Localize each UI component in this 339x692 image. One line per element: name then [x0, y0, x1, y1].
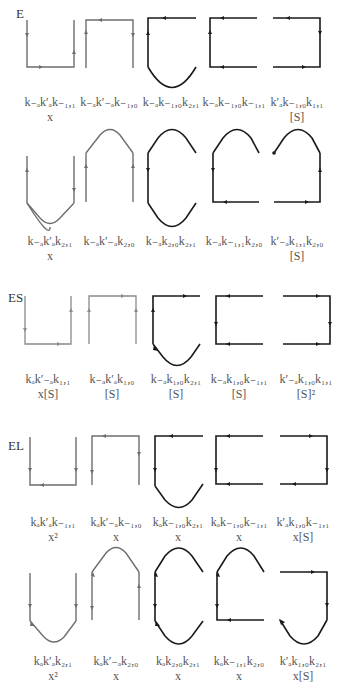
factor-EL2-5: x[S] [268, 669, 338, 683]
factor-ES-2: [S] [77, 387, 147, 401]
term-label: k′ₐk₋₁,₀k₁,₁[S] [262, 95, 332, 124]
term-E1-5: k′ₐk₋₁,₀k₁,₁ [262, 95, 332, 109]
term-label: k′ₐk₁,₀k₋₁,₁x[S] [268, 515, 338, 544]
term-label: kₐk₋₁,₀k₋₁,₁x [204, 515, 274, 544]
factor-EL1-3: x [143, 530, 213, 544]
factor-EL2-1: x² [18, 669, 88, 683]
factor-EL1-4: x [204, 530, 274, 544]
factor-EL2-4: x [204, 669, 274, 683]
term-label: k₋ₐk₁,₀k₋₁,₁[S] [204, 372, 274, 401]
factor-ES-3: [S] [141, 387, 211, 401]
term-ES-4: k₋ₐk₁,₀k₋₁,₁ [204, 372, 274, 386]
term-E1-2: k₋ₐk′₋ₐk₋₁,₀ [74, 95, 144, 109]
factor-E2-1: x [15, 249, 85, 263]
term-label: kₐk′₋ₐk₋₁,₀x [81, 515, 151, 544]
term-EL2-5: k′ₐk₁,₀k₂,₁ [268, 654, 338, 668]
term-label: k₋ₐk₂,₀k₂,₁ [136, 234, 206, 249]
term-EL1-3: kₐk₋₁,₀k₂,₁ [143, 515, 213, 529]
term-label: k₋ₐk′₋ₐk₂,₀ [74, 234, 144, 249]
term-label: k₋ₐk′ₐk₁,₀[S] [77, 372, 147, 401]
term-label: k₋ₐk₋₁,₀k₂,₁ [136, 95, 206, 110]
factor-EL1-1: x² [18, 530, 88, 544]
term-label: kₐk′₋ₐk₁,₁x[S] [13, 372, 83, 401]
term-label: kₐk₋₁,₁k₂,₀x [204, 654, 274, 683]
term-label: kₐk′ₐk₂,₁x² [18, 654, 88, 683]
term-E2-3: k₋ₐk₂,₀k₂,₁ [136, 234, 206, 248]
term-E2-4: k₋ₐk₋₁,₁k₂,₀ [199, 234, 269, 248]
factor-ES-5: [S]² [271, 387, 339, 401]
term-EL1-1: kₐk′ₐk₋₁,₁ [18, 515, 88, 529]
term-E1-4: k₋ₐk₋₁,₀k₋₁,₁ [199, 95, 269, 109]
factor-EL1-2: x [81, 530, 151, 544]
term-label: k₋ₐk′₋ₐk₋₁,₀ [74, 95, 144, 110]
factor-ES-4: [S] [204, 387, 274, 401]
term-EL1-2: kₐk′₋ₐk₋₁,₀ [81, 515, 151, 529]
term-E2-2: k₋ₐk′₋ₐk₂,₀ [74, 234, 144, 248]
term-EL1-4: kₐk₋₁,₀k₋₁,₁ [204, 515, 274, 529]
factor-E1-1: x [15, 110, 85, 124]
term-EL2-2: kₐk′₋ₐk₂,₀ [81, 654, 151, 668]
factor-ES-1: x[S] [13, 387, 83, 401]
term-ES-5: k′₋ₐk₁,₀k₁,₁ [271, 372, 339, 386]
term-EL2-4: kₐk₋₁,₁k₂,₀ [204, 654, 274, 668]
term-label: k₋ₐk₋₁,₁k₂,₀ [199, 234, 269, 249]
term-label: k′₋ₐk₁,₀k₁,₁[S]² [271, 372, 339, 401]
term-label: k′ₐk₁,₀k₂,₁x[S] [268, 654, 338, 683]
factor-E1-5: [S] [262, 110, 332, 124]
term-label: kₐk′ₐk₋₁,₁x² [18, 515, 88, 544]
term-EL1-5: k′ₐk₁,₀k₋₁,₁ [268, 515, 338, 529]
term-EL2-1: kₐk′ₐk₂,₁ [18, 654, 88, 668]
factor-EL1-5: x[S] [268, 530, 338, 544]
term-label: kₐk′₋ₐk₂,₀x [81, 654, 151, 683]
term-E1-3: k₋ₐk₋₁,₀k₂,₁ [136, 95, 206, 109]
term-EL2-3: kₐk₂,₀k₂,₁ [143, 654, 213, 668]
term-E2-5: k′₋ₐk₁,₁k₂,₀ [262, 234, 332, 248]
term-label: k′₋ₐk₁,₁k₂,₀[S] [262, 234, 332, 263]
term-ES-1: kₐk′₋ₐk₁,₁ [13, 372, 83, 386]
factor-EL2-2: x [81, 669, 151, 683]
term-label: kₐk₂,₀k₂,₁x [143, 654, 213, 683]
term-ES-3: k₋ₐk₁,₀k₂,₁ [141, 372, 211, 386]
term-label: kₐk₋₁,₀k₂,₁x [143, 515, 213, 544]
term-label: k₋ₐk₁,₀k₂,₁[S] [141, 372, 211, 401]
term-label: k₋ₐk₋₁,₀k₋₁,₁ [199, 95, 269, 110]
term-ES-2: k₋ₐk′ₐk₁,₀ [77, 372, 147, 386]
factor-E2-5: [S] [262, 249, 332, 263]
factor-EL2-3: x [143, 669, 213, 683]
